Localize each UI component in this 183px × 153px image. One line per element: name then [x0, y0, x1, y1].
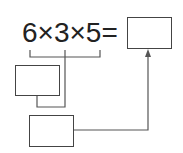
- connector-lines: [0, 0, 183, 153]
- arrow-up-icon: [145, 49, 151, 57]
- connector-to-answer: [74, 56, 148, 130]
- connector-3-down: [37, 50, 65, 107]
